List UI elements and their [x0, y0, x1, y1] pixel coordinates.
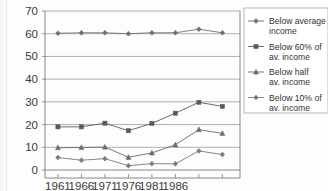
data-point-marker — [197, 100, 201, 104]
x-axis — [45, 174, 240, 178]
data-point-marker — [79, 125, 83, 129]
series-line — [58, 151, 222, 166]
data-point-marker — [126, 163, 131, 168]
data-point-marker — [173, 111, 177, 115]
legend-label-line2: av. income — [269, 103, 310, 113]
series-line — [58, 130, 222, 158]
y-axis-tick-label: 40 — [25, 73, 38, 85]
data-point-marker — [197, 27, 202, 32]
data-point-marker — [56, 31, 61, 36]
legend-label-line1: Below average — [269, 16, 326, 26]
x-axis-tick-label: 1971 — [92, 180, 118, 191]
legend-label-line1: Below 10% of — [269, 93, 322, 103]
y-axis-tick-label: 30 — [25, 96, 38, 108]
data-point-marker — [197, 148, 202, 153]
x-axis-labels: 196119661971197619811986 — [45, 180, 188, 191]
data-point-marker — [103, 156, 108, 161]
data-point-marker — [126, 129, 130, 133]
data-point-marker — [103, 121, 107, 125]
data-point-marker — [173, 161, 178, 166]
x-axis-tick-label: 1976 — [116, 180, 142, 191]
chart-container: 010203040506070 196119661971197619811986… — [0, 0, 328, 191]
data-series — [55, 127, 224, 160]
data-point-marker — [126, 31, 131, 36]
y-axis-tick-label: 70 — [25, 5, 38, 17]
data-point-marker — [79, 30, 84, 35]
data-point-marker — [103, 30, 108, 35]
x-axis-tick-label: 1986 — [163, 180, 189, 191]
data-point-marker — [150, 121, 154, 125]
data-series — [56, 27, 225, 37]
y-axis-tick-label: 50 — [25, 50, 38, 62]
legend-label-line2: av. income — [269, 77, 310, 87]
y-axis-tick-label: 20 — [25, 119, 38, 131]
y-axis-tick-label: 10 — [25, 141, 38, 153]
x-axis-tick-label: 1966 — [69, 180, 95, 191]
y-axis-labels: 010203040506070 — [25, 5, 45, 176]
data-point-marker — [150, 30, 155, 35]
data-point-marker — [79, 158, 84, 163]
data-point-marker — [56, 125, 60, 129]
x-axis-tick-label: 1961 — [45, 180, 71, 191]
y-axis-tick-label: 0 — [32, 164, 38, 176]
data-point-marker — [173, 30, 178, 35]
legend-sample-marker — [254, 44, 258, 48]
chart-legend: Below averageincomeBelow 60% ofav. incom… — [244, 8, 328, 113]
legend-label-line2: income — [269, 26, 297, 36]
legend-label-line1: Below half — [269, 67, 309, 77]
x-axis-tick-label: 1981 — [139, 180, 165, 191]
data-point-marker — [220, 152, 225, 157]
data-point-marker — [196, 127, 201, 132]
legend-label-line1: Below 60% of — [269, 42, 322, 52]
y-axis-tick-label: 60 — [25, 28, 38, 40]
data-point-marker — [220, 30, 225, 35]
line-chart: 010203040506070 196119661971197619811986… — [0, 0, 328, 191]
data-series — [56, 148, 225, 168]
data-point-marker — [56, 155, 61, 160]
data-point-marker — [150, 161, 155, 166]
legend-label-line2: av. income — [269, 52, 310, 62]
data-point-marker — [173, 142, 178, 147]
data-point-marker — [220, 104, 224, 108]
